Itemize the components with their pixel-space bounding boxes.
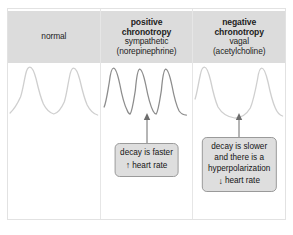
header-line-1: normal <box>41 32 66 41</box>
figure-panel: normal positive chronotropy sympathetic … <box>7 8 286 220</box>
callout-rate: ↓heart rate <box>208 176 270 187</box>
callout-line-3: hyperpolarization <box>208 164 270 175</box>
waveform-normal <box>8 63 100 121</box>
header-line-4: (norepinephrine) <box>117 47 177 56</box>
callout-negative: decay is slower and there is a hyperpola… <box>202 137 276 192</box>
callout-rate: ↑heart rate <box>120 161 173 172</box>
column-positive-chronotropy: positive chronotropy sympathetic (norepi… <box>101 9 194 219</box>
trace-plot-normal <box>8 63 100 121</box>
column-normal: normal <box>8 9 101 219</box>
callout-rate-label: heart rate <box>225 176 260 185</box>
arrow-down-icon: ↓ <box>218 176 223 186</box>
callout-line-1: decay is slower <box>208 142 270 153</box>
column-header-negative: negative chronotropy vagal (acetylcholin… <box>193 11 285 63</box>
callout-line-2: and there is a <box>208 153 270 164</box>
arrow-up-icon: ↑ <box>126 160 131 170</box>
column-container: normal positive chronotropy sympathetic … <box>8 9 285 219</box>
callout-positive: decay is faster ↑heart rate <box>114 143 179 177</box>
header-line-4: (acetylcholine) <box>213 47 266 56</box>
column-header-positive: positive chronotropy sympathetic (norepi… <box>101 11 193 63</box>
pointer-arrow-positive <box>142 113 152 143</box>
callout-line-1: decay is faster <box>120 148 173 159</box>
column-negative-chronotropy: negative chronotropy vagal (acetylcholin… <box>193 9 285 219</box>
pointer-arrow-negative <box>234 113 244 138</box>
column-header-normal: normal <box>8 11 100 63</box>
callout-rate-label: heart rate <box>132 161 167 170</box>
